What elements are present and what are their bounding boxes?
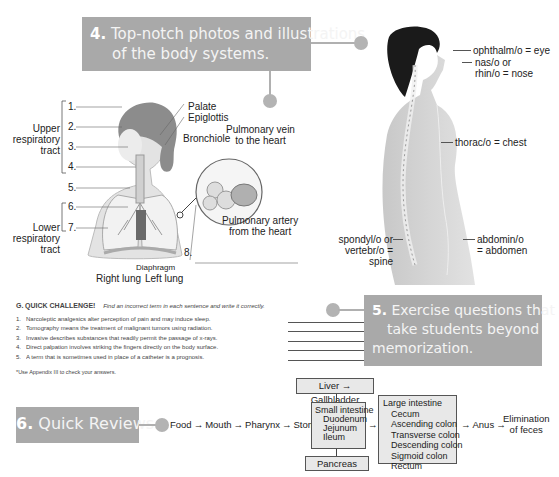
number-label: 5. <box>68 182 76 193</box>
spine-label: spondyl/o or vertebr/o = spine <box>339 234 393 267</box>
label-leader-line <box>453 50 471 51</box>
quick-challenge-section: G. QUICK CHALLENGE! Find an incorrect te… <box>16 301 400 378</box>
footnote: *Use Appendix III to check your answers. <box>16 368 400 378</box>
arrow-icon: → <box>194 419 204 430</box>
callout-text: of the body systems. <box>90 45 269 63</box>
connector-line <box>311 42 357 44</box>
number-label: 2. <box>68 121 76 132</box>
section-letter: G. <box>16 302 23 309</box>
diaphragm-label: Diaphragm <box>136 262 175 273</box>
chest-label: thorac/o = chest <box>455 137 526 148</box>
epiglottis-label: Epiglottis <box>188 112 229 123</box>
liver-box: Liver → Gallbladder <box>296 378 374 394</box>
label-leader-line <box>441 142 453 143</box>
large-intestine-box: Large intestine Cecum Ascending colon Tr… <box>378 395 457 464</box>
callout-reviews: 6. Quick Reviews. <box>16 407 139 443</box>
number-label: 6. <box>68 201 76 212</box>
challenge-item: 4.Direct palpation involves striking the… <box>16 343 400 353</box>
callout-number: 5. <box>372 302 387 318</box>
number-label: 7. <box>68 222 76 233</box>
label-leader-line <box>463 239 475 240</box>
number-label: 8. <box>184 247 192 258</box>
challenge-item: 1.Narcoleptic analgesics alter perceptio… <box>16 315 400 325</box>
abdomen-label: abdomin/o = abdomen <box>477 234 527 256</box>
upper-respiratory-label: Upper respiratory tract <box>13 123 60 156</box>
challenge-item: 2.Tomography means the treatment of mali… <box>16 324 400 334</box>
number-label: 3. <box>68 141 76 152</box>
anus-label: Anus <box>473 419 495 430</box>
callout-text: Top-notch photos and illustrations <box>111 25 365 43</box>
elimination-label: Elimination of feces <box>503 413 549 435</box>
section-instruction: Find an incorrect term in each sentence … <box>103 303 265 309</box>
pancreas-box: Pancreas <box>305 456 369 471</box>
callout-number: 6. <box>16 414 33 433</box>
small-intestine-box: Small intestine Duodenum Jejunum Ileum <box>311 402 366 449</box>
callout-text: take students beyond <box>372 321 539 337</box>
callout-text: Exercise questions that <box>392 302 555 318</box>
number-label: 4. <box>68 161 76 172</box>
pulmonary-vein-label: Pulmonary vein to the heart <box>226 124 295 146</box>
arrow-icon: → <box>368 419 378 430</box>
callout-photos: 4. Top-notch photos and illustrations of… <box>82 17 311 71</box>
arrow-icon: → <box>461 419 471 430</box>
nose-label: nas/o or rhin/o = nose <box>475 57 533 79</box>
callout-exercise: 5. Exercise questions that take students… <box>364 295 542 366</box>
left-lung-label: Left lung <box>145 273 183 284</box>
connector-dot <box>354 36 368 50</box>
callout-number: 4. <box>90 25 106 43</box>
eye-label: ophthalm/o = eye <box>473 45 550 56</box>
arrow-icon: → <box>282 419 292 430</box>
digestive-end: →Anus→ <box>459 419 508 430</box>
right-lung-label: Right lung <box>96 273 141 284</box>
bronchiole-label: Bronchiole <box>183 133 230 144</box>
label-leader-line <box>462 62 472 63</box>
pulmonary-artery-label: Pulmonary artery from the heart <box>222 215 298 237</box>
lower-respiratory-label: Lower respiratory tract <box>13 222 60 255</box>
connector-dot <box>155 418 169 432</box>
arrow-down-icon <box>336 394 337 402</box>
number-label: 1. <box>68 101 76 112</box>
challenge-item: 5.A term that is sometimes used in place… <box>16 353 400 363</box>
callout-text: memorization. <box>372 340 473 356</box>
section-title: QUICK CHALLENGE! <box>25 302 95 309</box>
challenge-item: 3.Invasive describes substances that rea… <box>16 334 400 344</box>
arrow-icon: → <box>234 419 244 430</box>
label-leader-line <box>393 239 403 240</box>
connector-line <box>338 309 365 311</box>
palate-label: Palate <box>188 101 216 112</box>
